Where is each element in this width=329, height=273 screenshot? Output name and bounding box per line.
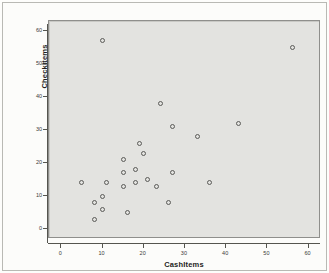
data-point <box>170 124 175 129</box>
data-point <box>145 177 150 182</box>
x-tick-label: 0 <box>59 250 62 256</box>
x-tick <box>266 244 267 248</box>
x-axis-title: CashItems <box>48 260 320 269</box>
y-tick-label: 20 <box>31 159 42 165</box>
y-tick-label: 0 <box>31 225 42 231</box>
scatterplot-chart: 0102030405060 0102030405060 CashItems Ch… <box>11 10 324 269</box>
x-tick <box>225 244 226 248</box>
data-point <box>92 200 97 205</box>
data-point <box>290 45 295 50</box>
x-tick-label: 50 <box>263 250 269 256</box>
data-point <box>121 157 126 162</box>
y-tick <box>43 162 47 163</box>
data-point <box>133 180 138 185</box>
data-point <box>125 210 130 215</box>
y-tick <box>43 195 47 196</box>
data-point <box>236 121 241 126</box>
plot-area <box>48 20 320 238</box>
y-tick-label: 10 <box>31 192 42 198</box>
x-tick <box>102 244 103 248</box>
data-point <box>154 184 159 189</box>
x-tick <box>184 244 185 248</box>
data-point <box>166 200 171 205</box>
data-point <box>92 217 97 222</box>
x-tick-label: 10 <box>98 250 104 256</box>
data-point <box>100 207 105 212</box>
x-tick-label: 40 <box>222 250 228 256</box>
y-tick <box>43 228 47 229</box>
x-tick-label: 20 <box>140 250 146 256</box>
data-point <box>195 134 200 139</box>
data-point <box>137 141 142 146</box>
data-points-layer <box>49 21 319 237</box>
page-frame: 0102030405060 0102030405060 CashItems Ch… <box>2 2 327 271</box>
data-point <box>100 38 105 43</box>
x-tick-label: 60 <box>304 250 310 256</box>
data-point <box>100 194 105 199</box>
data-point <box>158 101 163 106</box>
data-point <box>207 180 212 185</box>
data-point <box>121 170 126 175</box>
y-axis-title: CheckItems <box>40 0 49 137</box>
x-tick-label: 30 <box>181 250 187 256</box>
x-tick <box>60 244 61 248</box>
data-point <box>141 151 146 156</box>
screenshot-root: 0102030405060 0102030405060 CashItems Ch… <box>0 0 329 273</box>
data-point <box>121 184 126 189</box>
x-tick <box>308 244 309 248</box>
data-point <box>133 167 138 172</box>
data-point <box>104 180 109 185</box>
data-point <box>79 180 84 185</box>
x-tick <box>143 244 144 248</box>
data-point <box>170 170 175 175</box>
